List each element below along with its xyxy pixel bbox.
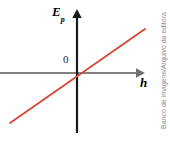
y-axis-label: Ep: [52, 5, 65, 22]
potential-energy-vs-height-chart: Ep h 0 Banco de imagens/Arquivo da edito…: [0, 0, 170, 141]
chart-plot-area: [0, 0, 170, 141]
y-axis-arrowhead: [72, 9, 81, 18]
origin-label: 0: [63, 54, 69, 65]
image-credit: Banco de imagens/Arquivo da editora: [157, 0, 169, 141]
y-axis-label-subscript: p: [61, 15, 65, 24]
x-axis-label: h: [140, 76, 147, 89]
y-axis-label-base: E: [52, 4, 61, 19]
image-credit-text: Banco de imagens/Arquivo da editora: [160, 12, 167, 129]
